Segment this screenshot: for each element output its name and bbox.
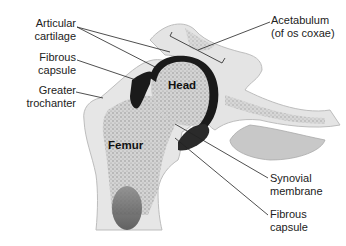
label-line: trochanter	[10, 97, 76, 110]
greater-trochanter-label: Greater trochanter	[10, 84, 76, 110]
label-line: Greater	[10, 84, 76, 97]
head-label: Head	[168, 79, 196, 91]
hip-joint-diagram: Articular cartilage Fibrous capsule Grea…	[0, 0, 346, 246]
label-line: cartilage	[18, 30, 76, 43]
label-line: Synovial	[270, 172, 340, 185]
fibrous-capsule-bottom-label: Fibrous capsule	[270, 208, 340, 234]
label-line: (of os coxae)	[271, 27, 346, 40]
label-line: capsule	[270, 221, 340, 234]
femur-label: Femur	[108, 139, 143, 151]
label-line: Acetabulum	[271, 14, 346, 27]
fibrous-capsule-top-label: Fibrous capsule	[18, 51, 76, 77]
label-line: Fibrous	[270, 208, 340, 221]
label-line: capsule	[18, 64, 76, 77]
label-line: membrane	[270, 185, 340, 198]
label-line: Fibrous	[18, 51, 76, 64]
synovial-membrane-label: Synovial membrane	[270, 172, 340, 198]
articular-cartilage-label: Articular cartilage	[18, 17, 76, 43]
acetabulum-label: Acetabulum (of os coxae)	[271, 14, 346, 40]
label-line: Articular	[18, 17, 76, 30]
